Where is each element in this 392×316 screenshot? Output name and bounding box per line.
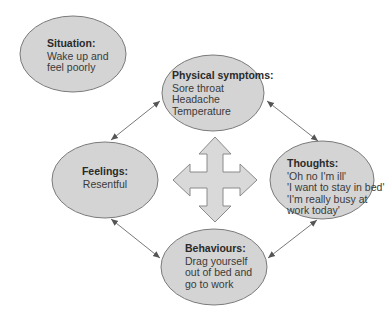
thoughts-node: Thoughts: 'Oh no I'm ill' 'I want to sta… bbox=[287, 158, 384, 217]
behaviours-node: Behaviours: Drag yourself out of bed and… bbox=[185, 243, 252, 290]
physical-line: Headache bbox=[172, 94, 274, 106]
physical-node: Physical symptoms: Sore throat Headache … bbox=[172, 70, 274, 117]
feelings-node: Feelings: Resentful bbox=[75, 166, 135, 190]
physical-title: Physical symptoms: bbox=[172, 70, 274, 82]
situation-title: Situation: bbox=[47, 38, 108, 50]
behaviours-title: Behaviours: bbox=[185, 243, 252, 255]
behaviours-line: go to work bbox=[185, 279, 252, 291]
feelings-line: Resentful bbox=[75, 179, 135, 191]
situation-line: feel poorly bbox=[47, 62, 108, 74]
thoughts-line: 'I want to stay in bed' bbox=[287, 182, 384, 194]
thoughts-title: Thoughts: bbox=[287, 158, 384, 170]
arrow-thoughts-behaviours bbox=[268, 220, 317, 258]
feelings-title: Feelings: bbox=[75, 166, 135, 178]
four-way-arrow-icon bbox=[173, 137, 257, 222]
arrow-physical-feelings bbox=[111, 101, 160, 140]
cbt-diagram: Situation: Wake up and feel poorly Physi… bbox=[0, 0, 392, 316]
thoughts-line: work today' bbox=[287, 205, 384, 217]
situation-node: Situation: Wake up and feel poorly bbox=[47, 38, 108, 74]
arrow-physical-thoughts bbox=[267, 101, 318, 141]
physical-line: Temperature bbox=[172, 106, 274, 118]
arrow-feelings-behaviours bbox=[111, 219, 160, 258]
behaviours-line: out of bed and bbox=[185, 267, 252, 279]
